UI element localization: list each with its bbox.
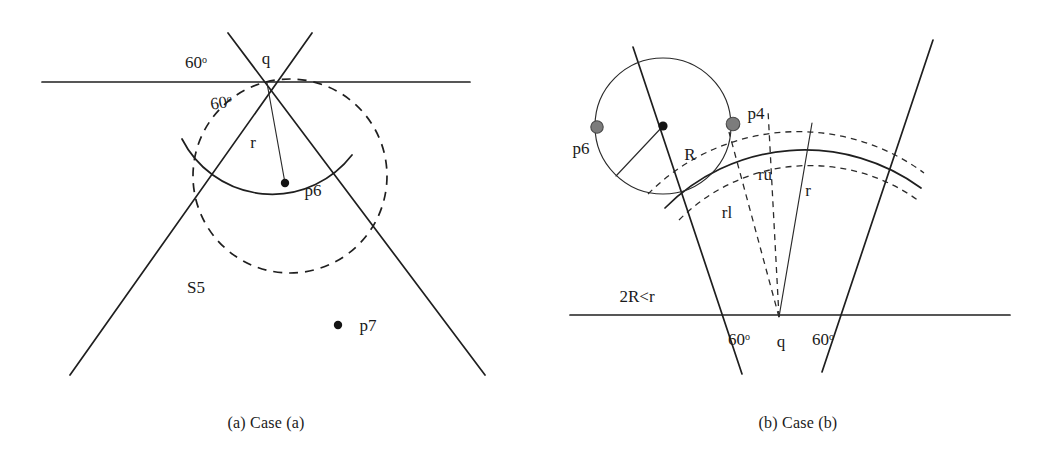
panel-b-label-R: R [684, 145, 696, 164]
panel-b-radial-line-r [779, 123, 812, 317]
panel-b-wedge-line-right [822, 40, 933, 372]
panel-b-label-p6: p6 [573, 139, 590, 158]
panel-b-label-rl: rl [722, 203, 733, 222]
panel-b-vertex-label-q: q [777, 332, 786, 351]
panel-b-svg: p6 R p4 ru rl r 2R<r 60o q 60o [0, 0, 1064, 476]
panel-b-label-r: r [805, 181, 811, 200]
panel-b-arc-rl-dashed [679, 166, 919, 220]
figure-root: 60o 60o q r p6 p7 S5 p6 R p4 [0, 0, 1064, 476]
panel-b-point-p6 [591, 121, 603, 133]
panel-b-point-p4 [726, 117, 740, 131]
panel-b-circle-center-dot [658, 121, 667, 130]
panel-b-label-p4: p4 [748, 104, 766, 123]
panel-b-radial-line-ru [768, 110, 779, 317]
panel-b-radial-line-rl [729, 132, 779, 317]
panel-b-label-ru: ru [758, 165, 773, 184]
panel-b-arc-r-solid [665, 150, 921, 208]
panel-b-label-inequality: 2R<r [619, 287, 654, 306]
panel-b-radius-line-R [616, 126, 663, 176]
panel-b-angle-left-label: 60o [728, 330, 750, 349]
